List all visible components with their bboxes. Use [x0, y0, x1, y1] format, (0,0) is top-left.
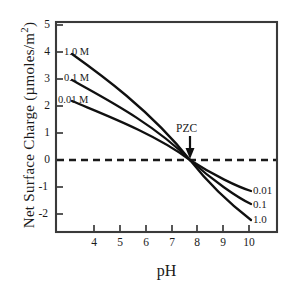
- y-tick-label-5: 5: [28, 18, 50, 30]
- y-tick-label-2: 2: [28, 99, 50, 111]
- curve-1p0M: [72, 54, 251, 220]
- x-tick-label-9: 9: [211, 236, 235, 248]
- series-label-left-0p1M: 0.1 M: [64, 72, 89, 83]
- curve-0p01M: [72, 101, 251, 191]
- y-tick-label-4: 4: [28, 45, 50, 57]
- series-label-right-1p0: 1.0: [253, 213, 267, 225]
- x-tick-label-8: 8: [185, 236, 209, 248]
- series-label-left-1p0M: 1.0 M: [64, 46, 89, 57]
- chart-figure: Net Surface Charge (µmoles/m2) pH 5 4 3 …: [0, 0, 291, 295]
- x-tick-label-10: 10: [237, 236, 261, 248]
- pzc-annotation-label: PZC: [176, 122, 197, 134]
- x-tick-label-7: 7: [160, 236, 184, 248]
- y-tick-label-0: 0: [28, 153, 50, 165]
- x-tick-label-4: 4: [82, 236, 106, 248]
- y-tick-label-neg2: -2: [26, 207, 48, 219]
- y-tick-label-neg1: -1: [26, 180, 48, 192]
- y-tick-label-1: 1: [28, 126, 50, 138]
- series-label-right-0p1: 0.1: [253, 198, 267, 210]
- x-tick-label-5: 5: [108, 236, 132, 248]
- series-label-left-0p01M: 0.01 M: [58, 94, 88, 105]
- x-axis-title: pH: [56, 262, 277, 280]
- y-tick-label-3: 3: [28, 72, 50, 84]
- x-tick-label-6: 6: [134, 236, 158, 248]
- series-label-right-0p01: 0.01: [253, 184, 272, 196]
